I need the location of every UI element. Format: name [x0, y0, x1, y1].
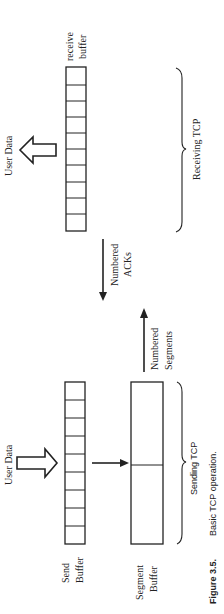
numbered-acks-arrow	[99, 239, 107, 301]
figure-title: Basic TCP operation.	[208, 451, 218, 536]
receiver-user-data-label: User Data	[3, 135, 14, 176]
transfer-arrow	[92, 459, 129, 467]
segment-buffer-label-1: Segment	[134, 565, 145, 600]
tcp-diagram: receive buffer User Data Receiving TCP N…	[0, 0, 224, 614]
send-buffer-label-2: Buffer	[74, 556, 85, 583]
sender-user-data-label: User Data	[3, 444, 14, 485]
acks-label-1: Numbered	[109, 244, 120, 286]
user-data-arrow-in-icon	[17, 449, 57, 477]
receiving-tcp-brace	[176, 68, 186, 232]
segment-buffer	[131, 382, 163, 544]
segments-label-2: Segments	[163, 331, 174, 370]
receive-buffer	[66, 67, 86, 231]
send-buffer	[65, 382, 85, 544]
acks-label-2: ACKs	[122, 252, 133, 277]
receive-buffer-label-2: buffer	[77, 34, 88, 59]
segments-label-1: Numbered	[149, 328, 160, 370]
sending-tcp-label: Sending TCP	[189, 442, 199, 495]
user-data-arrow-out-icon	[20, 137, 56, 163]
sending-tcp-brace	[177, 382, 186, 544]
receive-buffer-label-1: receive	[64, 32, 75, 61]
send-buffer-label-1: Send	[60, 563, 71, 583]
numbered-segments-arrow	[140, 308, 148, 372]
receiving-tcp-label: Receiving TCP	[191, 118, 202, 180]
segment-buffer-label-2: Buffer	[148, 565, 159, 592]
figure-number: Figure 3.5.	[208, 559, 218, 604]
